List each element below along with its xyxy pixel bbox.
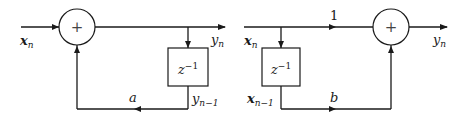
arrow-head-icon: [134, 106, 141, 112]
label-subscript: n−1: [199, 98, 218, 108]
fir-diagram: +: [244, 9, 448, 112]
arrow-head-icon: [329, 106, 336, 112]
arrow-head-icon: [388, 46, 394, 53]
label-base: x: [20, 33, 28, 48]
arrow-head-icon: [74, 46, 80, 53]
label-subscript: n: [440, 39, 446, 49]
label-base: x: [247, 91, 255, 106]
adder-plus: +: [385, 18, 398, 36]
output-label-yn: yn: [433, 33, 446, 49]
input-label-xn: xn: [20, 34, 34, 50]
label-base: z: [178, 62, 185, 77]
delay-label-z-inv: z−1: [178, 62, 198, 76]
arrow-head-icon: [52, 24, 59, 30]
label-base: x: [244, 33, 252, 48]
label-superscript: −1: [185, 61, 198, 71]
label-base: z: [271, 62, 278, 77]
direct-gain-label-1: 1: [330, 9, 338, 22]
arrow-head-icon: [185, 41, 191, 48]
label-subscript: n: [28, 40, 34, 50]
label-superscript: −1: [278, 61, 291, 71]
arrow-head-icon: [218, 24, 226, 30]
label-subscript: n: [252, 40, 258, 50]
gain-label-a: a: [129, 91, 137, 104]
adder-plus: +: [71, 18, 84, 36]
gain-label-b: b: [330, 91, 338, 104]
label-subscript: n: [218, 39, 224, 49]
label-subscript: n−1: [255, 98, 274, 108]
output-label-yn: yn: [211, 33, 224, 49]
arrow-head-icon: [440, 24, 448, 30]
arrow-head-icon: [278, 41, 284, 48]
delay-output-label-xn1: xn−1: [247, 92, 274, 108]
block-diagrams: + +: [0, 0, 468, 117]
input-label-xn: xn: [244, 34, 258, 50]
delay-label-z-inv: z−1: [271, 62, 291, 76]
delay-output-label-yn1: yn−1: [192, 92, 218, 108]
arrow-head-icon: [329, 24, 336, 30]
